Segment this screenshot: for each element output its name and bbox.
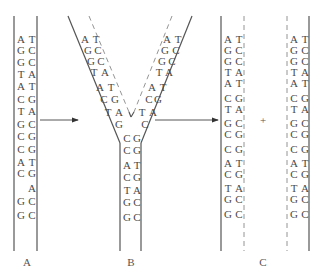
nucleotide-base: C (290, 143, 297, 155)
nucleotide-base: T (139, 106, 146, 118)
template-strand-line (131, 112, 134, 117)
panel-a-parent-dna: ATGCGCTAATCGTAGCCGCGATCGAGCGC (14, 16, 37, 251)
panel-label-c: C (259, 256, 266, 268)
nucleotide-base: G (123, 196, 131, 208)
nucleotide-base: C (301, 193, 308, 205)
nucleotide-base: A (101, 66, 109, 78)
nucleotide-base: C (235, 193, 242, 205)
nucleotide-base: G (290, 193, 298, 205)
nucleotide-base: C (290, 168, 297, 180)
nucleotide-base: T (291, 103, 298, 115)
nucleotide-base: T (91, 66, 98, 78)
nucleotide-base: T (108, 81, 115, 93)
nucleotide-base: C (123, 171, 130, 183)
nucleotide-base: C (17, 143, 24, 155)
nucleotide-base: C (145, 93, 152, 105)
nucleotide-base: A (235, 103, 243, 115)
nucleotide-base: A (301, 103, 309, 115)
nucleotide-base: G (123, 211, 131, 223)
nucleotide-base: A (148, 81, 156, 93)
nucleotide-base: G (133, 144, 141, 156)
nucleotide-base: C (301, 208, 308, 220)
nucleotide-base: G (301, 143, 309, 155)
plus-sign: + (260, 114, 266, 126)
nucleotide-base: C (133, 196, 140, 208)
nucleotide-base: G (301, 168, 309, 180)
nucleotide-base: G (28, 167, 36, 179)
nucleotide-base: A (224, 77, 232, 89)
nucleotide-base: T (236, 77, 243, 89)
nucleotide-base: C (17, 130, 24, 142)
daughter-duplex-2: ATGCGCTAATCGTAGCCGCGATCGTAGCGC (287, 16, 309, 251)
diagram-canvas: ATGCGCTAATCGTAGCCGCGATCGAGCGC ATGCGCTAAT… (0, 0, 324, 279)
nucleotide-base: T (160, 81, 167, 93)
nucleotide-base: A (17, 80, 25, 92)
nucleotide-base: G (17, 209, 25, 221)
nucleotide-base: T (105, 106, 112, 118)
nucleotide-base: A (133, 184, 141, 196)
panel-label-b: B (127, 256, 134, 268)
new-strand-line (134, 16, 172, 112)
nucleotide-base: A (28, 68, 36, 80)
nucleotide-base: G (235, 168, 243, 180)
nucleotide-base: C (133, 211, 140, 223)
nucleotide-base: C (28, 209, 35, 221)
nucleotide-base: G (290, 208, 298, 220)
new-strand-line (89, 16, 129, 112)
nucleotide-base: T (225, 103, 232, 115)
nucleotide-base: T (156, 66, 163, 78)
nucleotide-base: T (29, 80, 36, 92)
nucleotide-base: G (17, 118, 25, 130)
nucleotide-base: G (17, 195, 25, 207)
nucleotide-base: C (17, 167, 24, 179)
nucleotide-base: C (290, 128, 297, 140)
nucleotide-base: T (18, 68, 25, 80)
nucleotide-base: C (123, 132, 130, 144)
nucleotide-base: A (165, 66, 173, 78)
panel-b-replication-fork: ATGCGCTAATCGTAGATGCGCTAATCGTACCGCGATCGTA… (68, 16, 192, 251)
nucleotide-base: C (235, 208, 242, 220)
nucleotide-base: T (18, 105, 25, 117)
panel-label-a: A (23, 256, 31, 268)
nucleotide-base: C (28, 56, 35, 68)
nucleotide-base: G (17, 56, 25, 68)
nucleotide-base: A (290, 77, 298, 89)
panel-c-daughter-dna: ATGCGCTAATCGTAGCCGCGATCGTAGCGCATGCGCTAAT… (221, 16, 309, 251)
nucleotide-base: A (115, 106, 123, 118)
template-strand-line (129, 112, 131, 117)
nucleotide-base: C (224, 168, 231, 180)
nucleotide-base: C (28, 44, 35, 56)
nucleotide-base: C (28, 195, 35, 207)
nucleotide-base: G (28, 93, 36, 105)
nucleotide-base: A (28, 182, 36, 194)
nucleotide-base: T (134, 159, 141, 171)
nucleotide-base: G (224, 193, 232, 205)
nucleotide-base: G (115, 118, 123, 130)
nucleotide-base: A (149, 106, 157, 118)
nucleotide-base: G (235, 143, 243, 155)
nucleotide-base: G (28, 143, 36, 155)
nucleotide-base: C (100, 93, 107, 105)
nucleotide-base: G (301, 128, 309, 140)
nucleotide-base: G (154, 93, 162, 105)
nucleotide-base: A (28, 105, 36, 117)
nucleotide-base: G (224, 208, 232, 220)
nucleotide-base: C (17, 93, 24, 105)
replication-diagram: ATGCGCTAATCGTAGCCGCGATCGAGCGC ATGCGCTAAT… (0, 0, 324, 279)
nucleotide-base: C (224, 143, 231, 155)
nucleotide-base: A (123, 159, 131, 171)
nucleotide-base: C (123, 144, 130, 156)
nucleotide-base: G (133, 132, 141, 144)
nucleotide-base: G (28, 130, 36, 142)
nucleotide-base: T (124, 184, 131, 196)
nucleotide-base: C (28, 118, 35, 130)
nucleotide-base: C (141, 118, 148, 130)
nucleotide-base: G (133, 171, 141, 183)
daughter-duplex-1: ATGCGCTAATCGTAGCCGCGATCGTAGCGC (221, 16, 244, 251)
nucleotide-base: C (224, 128, 231, 140)
nucleotide-base: A (96, 81, 104, 93)
nucleotide-base: G (111, 93, 119, 105)
nucleotide-base: G (235, 128, 243, 140)
nucleotide-base: T (302, 77, 309, 89)
nucleotide-base: G (17, 44, 25, 56)
